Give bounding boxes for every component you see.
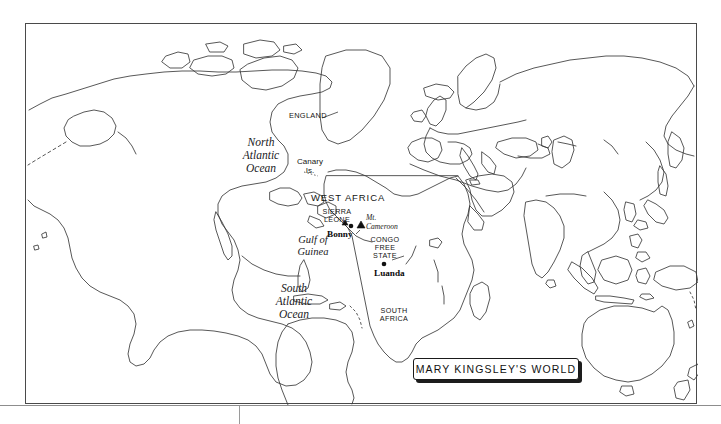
map-frame: North Atlantic Ocean South Atlantic Ocea… bbox=[25, 23, 697, 404]
map-title-text: MARY KINGSLEY'S WORLD bbox=[416, 363, 577, 375]
label-south-africa: SOUTH AFRICA bbox=[377, 307, 411, 323]
map-label-layer: North Atlantic Ocean South Atlantic Ocea… bbox=[26, 24, 698, 405]
label-west-africa: WEST AFRICA bbox=[311, 193, 385, 204]
label-south-atlantic-ocean: South Atlantic Ocean bbox=[259, 282, 329, 321]
map-page: North Atlantic Ocean South Atlantic Ocea… bbox=[0, 0, 721, 424]
label-luanda: Luanda bbox=[374, 268, 405, 278]
label-mt-cameroon: Mt. Cameroon bbox=[366, 214, 412, 231]
label-canary-islands: Canary Is. bbox=[288, 158, 332, 176]
label-sierra-leone: SIERRA LEONE bbox=[320, 208, 354, 224]
label-gulf-of-guinea: Gulf of Guinea bbox=[284, 234, 342, 258]
label-north-atlantic-ocean: North Atlantic Ocean bbox=[226, 136, 296, 175]
page-vertical-rule bbox=[239, 406, 240, 424]
map-title-cartouche: MARY KINGSLEY'S WORLD bbox=[413, 358, 579, 380]
label-congo-free-state: CONGO FREE STATE bbox=[367, 236, 403, 260]
page-horizontal-rule bbox=[0, 405, 721, 406]
label-england: ENGLAND bbox=[289, 112, 327, 120]
